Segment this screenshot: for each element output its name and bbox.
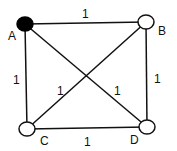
weight-b-c: 1 xyxy=(57,84,64,98)
node-a xyxy=(17,17,33,31)
node-d xyxy=(139,120,155,134)
edge-a-c xyxy=(25,24,27,129)
node-label-d: D xyxy=(130,133,139,147)
weight-a-b: 1 xyxy=(82,7,89,21)
edge-b-d xyxy=(146,22,147,127)
node-label-a: A xyxy=(8,29,16,43)
node-label-c: C xyxy=(40,134,49,148)
weight-b-d: 1 xyxy=(154,72,161,86)
weight-a-d: 1 xyxy=(114,84,121,98)
edge-b-c xyxy=(27,22,146,129)
weight-c-d: 1 xyxy=(84,135,91,149)
edge-c-d xyxy=(27,127,147,129)
weight-a-c: 1 xyxy=(13,73,20,87)
node-label-b: B xyxy=(158,24,166,38)
node-c xyxy=(19,122,35,136)
node-b xyxy=(138,15,154,29)
edge-a-b xyxy=(25,22,146,24)
graph-diagram: A B C D 1 1 1 1 1 1 xyxy=(0,0,177,151)
